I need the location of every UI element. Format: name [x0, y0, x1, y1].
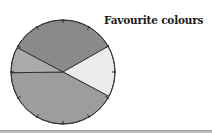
chart-title: Favourite colours	[104, 14, 203, 26]
pie-slices	[11, 20, 115, 124]
divider	[0, 130, 212, 133]
